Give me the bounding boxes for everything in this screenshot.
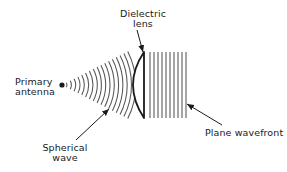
dielectric-lens-label-line2: lens bbox=[120, 19, 166, 29]
spherical-arc bbox=[66, 83, 67, 88]
spherical-arc bbox=[116, 57, 123, 112]
spherical-arc bbox=[70, 81, 71, 89]
dielectric-lens-arrow bbox=[137, 30, 143, 52]
spherical-arc bbox=[74, 79, 75, 91]
spherical-arc bbox=[89, 71, 92, 99]
spherical-arc bbox=[78, 77, 80, 93]
spherical-wave-arcs bbox=[66, 52, 135, 119]
primary-antenna-icon bbox=[59, 82, 64, 87]
spherical-wave-label: Spherical wave bbox=[42, 143, 88, 163]
antenna-dot bbox=[59, 82, 64, 87]
plane-wavefront-arrow bbox=[187, 104, 222, 125]
primary-antenna-label-line2: antenna bbox=[15, 87, 55, 97]
spherical-arc bbox=[109, 61, 115, 108]
primary-antenna-label: Primary antenna bbox=[15, 77, 55, 97]
plane-wavefront-label-text: Plane wavefront bbox=[205, 128, 283, 138]
spherical-wave-arrow bbox=[76, 109, 109, 140]
dielectric-lens-shape bbox=[133, 52, 144, 118]
spherical-arc bbox=[82, 75, 84, 95]
spherical-arc bbox=[86, 73, 89, 97]
dielectric-lens-label: Dielectric lens bbox=[120, 9, 166, 29]
lens-outline bbox=[133, 52, 144, 118]
spherical-wave-label-line2: wave bbox=[42, 153, 88, 163]
callout-arrows bbox=[76, 30, 222, 140]
spherical-arc bbox=[112, 59, 118, 110]
spherical-arc bbox=[120, 55, 127, 114]
plane-wavefront-lines bbox=[150, 52, 186, 118]
spherical-arc bbox=[93, 69, 97, 101]
plane-wavefront-label: Plane wavefront bbox=[205, 128, 283, 138]
